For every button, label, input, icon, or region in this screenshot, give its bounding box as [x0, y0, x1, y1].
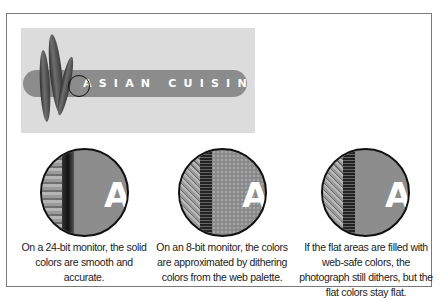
letter-a: A — [104, 178, 129, 212]
logo-title: ASIAN CUISINE — [83, 70, 269, 97]
caption-24bit: On a 24-bit monitor, the solid colors ar… — [14, 240, 154, 285]
zoom-24bit: A — [40, 148, 129, 237]
caption-8bit: On an 8-bit monitor, the colors are appr… — [152, 240, 292, 285]
photo-detail — [180, 150, 202, 235]
pepper-edge — [62, 150, 74, 235]
photo-detail — [42, 150, 64, 235]
pepper-edge — [343, 150, 355, 235]
zoom-websafe: A — [321, 148, 410, 237]
letter-a: A — [242, 178, 267, 212]
letter-a: A — [385, 178, 410, 212]
photo-detail — [323, 150, 345, 235]
pepper-edge — [200, 150, 212, 235]
caption-websafe: If the flat areas are filled with web-sa… — [296, 240, 436, 300]
zoom-8bit: A — [178, 148, 267, 237]
magnify-region-icon — [68, 75, 90, 97]
